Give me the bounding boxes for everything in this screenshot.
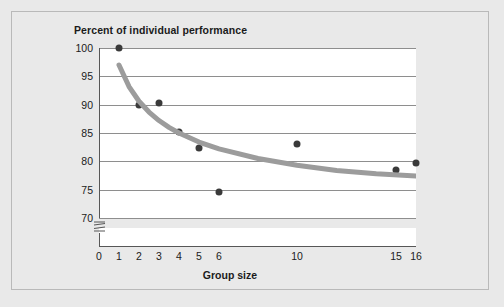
gridline: [99, 76, 416, 77]
data-point: [413, 160, 420, 167]
axis-break-icon: [93, 216, 106, 236]
y-tick-label: 75: [65, 184, 93, 196]
data-point: [116, 45, 123, 52]
x-tick-label: 0: [89, 250, 109, 262]
x-axis-line: [99, 246, 416, 247]
data-point: [156, 99, 163, 106]
data-point: [136, 101, 143, 108]
x-tick-label: 5: [189, 250, 209, 262]
x-tick-label: 10: [287, 250, 307, 262]
y-tick-label: 80: [65, 155, 93, 167]
x-tick-label: 16: [406, 250, 426, 262]
x-axis-title: Group size: [0, 269, 504, 281]
y-axis-line: [99, 48, 100, 218]
y-tick-label: 100: [65, 42, 93, 54]
y-tick-label: 70: [65, 212, 93, 224]
y-tick-label: 95: [65, 70, 93, 82]
y-tick-label: 90: [65, 99, 93, 111]
data-point: [176, 128, 183, 135]
gridline: [99, 161, 416, 162]
gridline: [99, 105, 416, 106]
x-tick-label: 6: [209, 250, 229, 262]
gridline: [99, 133, 416, 134]
x-tick-label: 4: [169, 250, 189, 262]
plot-area-below-break: [99, 228, 416, 246]
x-tick-label: 3: [149, 250, 169, 262]
plot-area: [99, 48, 416, 218]
x-tick-label: 15: [386, 250, 406, 262]
chart-figure: Percent of individual performance 707580…: [0, 0, 504, 307]
gridline: [99, 48, 416, 49]
chart-title: Percent of individual performance: [74, 24, 247, 36]
gridline: [99, 190, 416, 191]
data-point: [216, 188, 223, 195]
data-point: [294, 141, 301, 148]
data-point: [393, 166, 400, 173]
x-tick-label: 1: [109, 250, 129, 262]
data-point: [196, 144, 203, 151]
x-tick-label: 2: [129, 250, 149, 262]
x-axis-title-label: Group size: [203, 269, 257, 281]
gridline: [99, 218, 416, 219]
y-tick-label: 85: [65, 127, 93, 139]
